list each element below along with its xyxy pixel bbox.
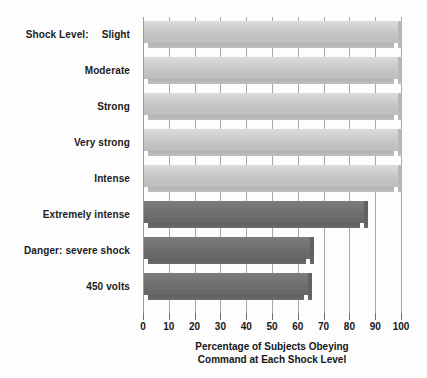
bar — [144, 129, 398, 156]
tick-label: 0 — [140, 321, 146, 332]
category-label: Extremely intense — [43, 201, 130, 228]
bar — [144, 237, 310, 264]
bar-corner-notch — [394, 187, 398, 192]
category-label: Very strong — [74, 129, 130, 156]
bar-corner-notch — [394, 79, 398, 84]
category-label: Intense — [94, 165, 130, 192]
tick-mark — [401, 313, 402, 320]
bar — [144, 57, 398, 84]
bar-body — [144, 273, 308, 295]
category-label: Shock Level:Slight — [26, 21, 130, 48]
bar-shadow — [148, 295, 312, 300]
x-axis-title-line-2: Command at Each Shock Level — [143, 353, 401, 366]
tick-label: 70 — [318, 321, 329, 332]
bar-shadow — [148, 43, 402, 48]
bar-corner-notch — [394, 43, 398, 48]
bar-end-cap — [398, 129, 402, 151]
category-label: Strong — [97, 93, 130, 120]
bar-chart: Shock Level:SlightModerateStrongVery str… — [0, 0, 427, 378]
category-label: Danger: severe shock — [24, 237, 130, 264]
bar-corner-notch — [394, 151, 398, 156]
bar-body — [144, 93, 398, 115]
bar-shadow — [148, 115, 402, 120]
bar-corner-notch — [394, 115, 398, 120]
bar-end-cap — [398, 21, 402, 43]
bar-end-cap — [364, 201, 368, 223]
bar-end-cap — [308, 273, 312, 295]
bar-body — [144, 57, 398, 79]
bar-body — [144, 201, 364, 223]
tick-label: 20 — [189, 321, 200, 332]
tick-mark — [272, 313, 273, 320]
bar — [144, 201, 364, 228]
bar-end-cap — [310, 237, 314, 259]
x-axis-title: Percentage of Subjects Obeying Command a… — [143, 340, 401, 366]
category-label: 450 volts — [86, 273, 130, 300]
bar-body — [144, 129, 398, 151]
bar-shadow — [148, 259, 314, 264]
tick-label: 10 — [163, 321, 174, 332]
bar-end-cap — [398, 93, 402, 115]
tick-label: 90 — [370, 321, 381, 332]
bar-shadow — [148, 79, 402, 84]
bar-body — [144, 165, 398, 187]
tick-mark — [298, 313, 299, 320]
tick-label: 30 — [215, 321, 226, 332]
tick-label: 60 — [292, 321, 303, 332]
tick-mark — [220, 313, 221, 320]
tick-mark — [195, 313, 196, 320]
bar — [144, 93, 398, 120]
tick-mark — [246, 313, 247, 320]
tick-label: 50 — [266, 321, 277, 332]
bar-shadow — [148, 223, 368, 228]
tick-mark — [143, 313, 144, 320]
tick-mark — [349, 313, 350, 320]
tick-label: 100 — [393, 321, 410, 332]
x-axis-tick-labels: 0102030405060708090100 — [143, 321, 401, 335]
bar-end-cap — [398, 57, 402, 79]
bar — [144, 165, 398, 192]
bar-corner-notch — [304, 295, 308, 300]
tick-mark — [375, 313, 376, 320]
bar-body — [144, 237, 310, 259]
bar-shadow — [148, 187, 402, 192]
tick-label: 40 — [241, 321, 252, 332]
bar — [144, 21, 398, 48]
tick-label: 80 — [344, 321, 355, 332]
bar-corner-notch — [360, 223, 364, 228]
category-label: Moderate — [85, 57, 130, 84]
bar-body — [144, 21, 398, 43]
axis-group-label: Shock Level: — [26, 29, 89, 40]
bar-corner-notch — [306, 259, 310, 264]
plot-area — [143, 17, 401, 313]
tick-mark — [324, 313, 325, 320]
bar-shadow — [148, 151, 402, 156]
x-axis-title-line-1: Percentage of Subjects Obeying — [143, 340, 401, 353]
x-axis-tick-marks — [143, 313, 401, 321]
bar-end-cap — [398, 165, 402, 187]
category-label-column: Shock Level:SlightModerateStrongVery str… — [0, 21, 137, 309]
category-label-text: Slight — [102, 29, 130, 40]
bar — [144, 273, 308, 300]
tick-mark — [169, 313, 170, 320]
